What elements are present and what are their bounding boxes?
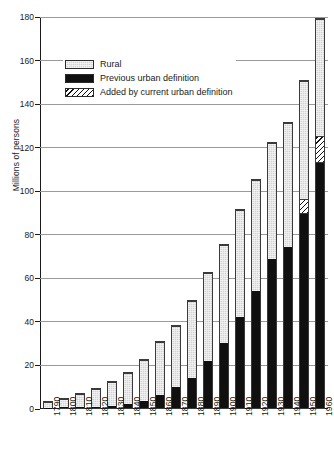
bar-segment-rural-1940	[284, 123, 292, 247]
bar-1950	[299, 80, 309, 409]
x-axis-ticks: 1790180018101820183018401850186018701880…	[40, 412, 328, 462]
x-tick-label-1940: 1940	[292, 397, 302, 416]
y-tick-label: 100	[6, 187, 34, 196]
bar-segment-rural-1870	[172, 326, 180, 387]
bar-segment-rural-1860	[156, 342, 164, 395]
bar-1890	[203, 272, 213, 409]
bar-segment-rural-1920	[252, 180, 260, 291]
x-tick-label-1810: 1810	[84, 397, 94, 416]
chart-legend: Rural Previous urban definition Added by…	[63, 56, 236, 102]
bar-segment-rural-1880	[188, 301, 196, 378]
x-tick-label-1900: 1900	[228, 397, 238, 416]
legend-swatch-previous-urban-icon	[65, 74, 94, 83]
x-tick-label-1790: 1790	[52, 397, 62, 416]
x-tick-label-1890: 1890	[212, 397, 222, 416]
bar-segment-rural-1850	[140, 360, 148, 401]
bar-segment-urban_prev-1940	[284, 247, 292, 408]
bar-1940	[283, 122, 293, 409]
y-tick-label: 140	[6, 100, 34, 109]
x-tick-label-1820: 1820	[100, 397, 110, 416]
bar-1900	[219, 244, 229, 410]
x-tick-label-1960: 1960	[324, 397, 334, 416]
y-tick-label: 80	[6, 231, 34, 240]
bar-segment-urban_prev-1920	[252, 291, 260, 408]
bar-segment-urban_prev-1930	[268, 259, 276, 408]
y-tick-label: 120	[6, 144, 34, 153]
y-tick-label: 160	[6, 57, 34, 66]
bar-segment-rural-1900	[220, 245, 228, 344]
x-tick-label-1840: 1840	[132, 397, 142, 416]
bar-1930	[267, 142, 277, 409]
bar-segment-rural-1960	[316, 19, 324, 136]
legend-item-rural: Rural	[65, 58, 233, 71]
bar-segment-urban_prev-1910	[236, 317, 244, 408]
legend-label-rural: Rural	[100, 60, 122, 69]
y-tick-label: 0	[6, 405, 34, 414]
bar-1880	[187, 300, 197, 409]
x-tick-label-1950: 1950	[308, 397, 318, 416]
y-tick-label: 60	[6, 274, 34, 283]
bar-segment-rural-1890	[204, 273, 212, 361]
bar-segment-urban_added-1950	[300, 199, 308, 214]
y-tick-label: 20	[6, 361, 34, 370]
x-tick-label-1870: 1870	[180, 397, 190, 416]
bar-segment-urban_added-1960	[316, 136, 324, 163]
legend-item-added-urban: Added by current urban definition	[65, 86, 233, 99]
bar-segment-urban_prev-1960	[316, 163, 324, 408]
x-tick-label-1830: 1830	[116, 397, 126, 416]
x-tick-label-1920: 1920	[260, 397, 270, 416]
bar-1910	[235, 209, 245, 409]
x-tick-label-1930: 1930	[276, 397, 286, 416]
x-tick-label-1880: 1880	[196, 397, 206, 416]
legend-item-previous-urban: Previous urban definition	[65, 72, 233, 85]
x-tick-label-1860: 1860	[164, 397, 174, 416]
y-tick-label: 40	[6, 318, 34, 327]
bar-1920	[251, 179, 261, 409]
x-tick-label-1800: 1800	[68, 397, 78, 416]
legend-label-added-urban: Added by current urban definition	[100, 88, 233, 97]
legend-label-previous-urban: Previous urban definition	[100, 74, 199, 83]
bar-segment-urban_prev-1950	[300, 214, 308, 408]
y-axis-title: Millions of persons	[11, 95, 21, 215]
bar-segment-rural-1950	[300, 81, 308, 200]
y-tick-label: 180	[6, 13, 34, 22]
population-bar-chart: Millions of persons 02040608010012014016…	[0, 0, 334, 464]
x-tick-label-1910: 1910	[244, 397, 254, 416]
bar-1960	[315, 18, 325, 409]
legend-swatch-rural-icon	[65, 60, 94, 69]
x-tick-label-1850: 1850	[148, 397, 158, 416]
bar-segment-rural-1910	[236, 210, 244, 318]
bar-segment-rural-1930	[268, 143, 276, 259]
legend-swatch-added-urban-icon	[65, 88, 94, 97]
